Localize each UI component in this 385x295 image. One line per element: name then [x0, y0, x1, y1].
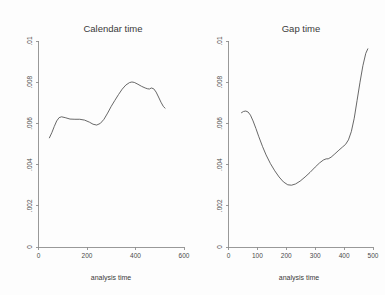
x-tick-label: 0	[227, 252, 231, 259]
panel-left-title: Calendar time	[83, 23, 142, 34]
x-tick-label: 200	[82, 252, 93, 259]
y-tick-label: .002	[216, 199, 223, 212]
panel-right-xlabel: analysis time	[279, 274, 320, 282]
y-tick-label: .004	[26, 158, 33, 171]
y-tick-label: .006	[216, 117, 223, 130]
panel-left-curve	[49, 82, 165, 138]
x-tick-label: 100	[252, 252, 263, 259]
y-tick-label: 0	[26, 245, 33, 249]
x-tick-label: 400	[339, 252, 350, 259]
x-tick-label: 0	[37, 252, 41, 259]
y-tick-label: .008	[26, 75, 33, 88]
panel-right-title: Gap time	[282, 23, 321, 34]
panel-calendar-time: Calendar time 0.002.004.006.008.01 02004…	[0, 0, 192, 295]
y-tick-label: .004	[216, 158, 223, 171]
x-tick-label: 300	[310, 252, 321, 259]
panel-right-y-ticks: 0.002.004.006.008.01	[216, 36, 229, 249]
y-tick-label: .006	[26, 117, 33, 130]
y-tick-label: 0	[216, 245, 223, 249]
panel-right-axes	[229, 41, 374, 248]
panel-right-x-ticks: 0100200300400500	[227, 247, 379, 259]
panel-left-axes	[39, 41, 185, 248]
panel-gap-time: Gap time 0.002.004.006.008.01 0100200300…	[193, 0, 385, 295]
x-tick-label: 500	[368, 252, 379, 259]
y-tick-label: .008	[216, 75, 223, 88]
panel-left-x-ticks: 0200400600	[37, 247, 190, 259]
figure-canvas: Calendar time 0.002.004.006.008.01 02004…	[0, 0, 385, 295]
y-tick-label: .002	[26, 199, 33, 212]
panel-right-curve	[242, 49, 368, 185]
x-tick-label: 600	[179, 252, 190, 259]
y-tick-label: .01	[216, 36, 223, 45]
panel-left-y-ticks: 0.002.004.006.008.01	[26, 36, 39, 249]
y-tick-label: .01	[26, 36, 33, 45]
x-tick-label: 400	[130, 252, 141, 259]
x-tick-label: 200	[281, 252, 292, 259]
panel-left-xlabel: analysis time	[91, 274, 132, 282]
